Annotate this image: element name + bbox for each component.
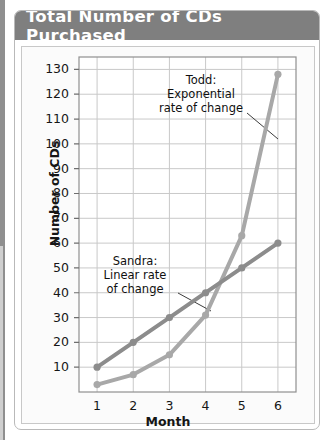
y-tick-label: 60 [35,235,69,250]
x-axis-title: Month [15,414,320,429]
y-tick-label: 100 [35,136,69,151]
annotation-sandra: Sandra: Linear rate of change [87,254,183,296]
annotation-sandra-line-2: Linear rate [87,268,183,282]
annotation-todd-line-3: rate of change [149,101,253,115]
y-tick-label: 130 [35,61,69,76]
page-margin-edge-lower [0,246,3,440]
y-tick-label: 120 [35,86,69,101]
annotation-todd-line-1: Todd: [149,73,253,87]
chart-figure: Total Number of CDs Purchased Number of … [0,0,335,440]
y-tick-label: 20 [35,334,69,349]
x-tick-label: 2 [122,398,144,413]
x-tick-label: 3 [158,398,180,413]
annotation-todd-line-2: Exponential [149,87,253,101]
chart-card: Total Number of CDs Purchased Number of … [14,10,320,430]
plot-area-wrapper: Number of CDs Month Todd: Exponential ra… [15,11,320,430]
x-tick-label: 6 [267,398,289,413]
x-tick-label: 1 [86,398,108,413]
x-tick-label: 4 [195,398,217,413]
y-tick-label: 90 [35,161,69,176]
y-tick-label: 30 [35,310,69,325]
x-tick-label: 5 [231,398,253,413]
annotation-todd: Todd: Exponential rate of change [149,73,253,115]
y-tick-label: 10 [35,359,69,374]
y-tick-label: 110 [35,111,69,126]
y-tick-label: 70 [35,210,69,225]
y-tick-label: 40 [35,285,69,300]
annotation-sandra-line-1: Sandra: [87,254,183,268]
y-tick-label: 50 [35,260,69,275]
annotation-sandra-line-3: of change [87,282,183,296]
y-tick-label: 80 [35,185,69,200]
